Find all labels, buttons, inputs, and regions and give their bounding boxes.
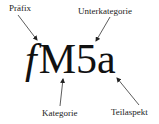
arrow-subcategory-icon <box>96 17 110 41</box>
arrow-category-icon <box>60 79 63 106</box>
arrow-subaspect-icon <box>117 78 139 105</box>
arrows-layer <box>0 0 159 124</box>
arrow-prefix-icon <box>18 15 37 40</box>
